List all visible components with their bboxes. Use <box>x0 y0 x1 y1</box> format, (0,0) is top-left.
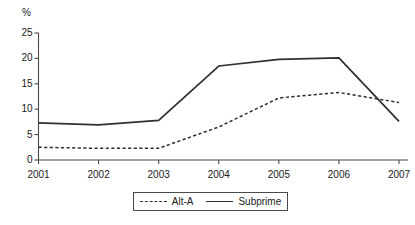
x-axis-tick-label: 2003 <box>138 170 180 180</box>
x-axis-tick-label: 2002 <box>78 170 120 180</box>
x-axis-tick-label: 2005 <box>258 170 300 180</box>
x-axis-tick-label: 2004 <box>198 170 240 180</box>
y-axis-tick-label: 15 <box>11 79 33 89</box>
legend-item-label: Subprime <box>238 197 281 207</box>
y-axis-tick-label: 20 <box>11 53 33 63</box>
legend-item-subprime: Subprime <box>206 197 281 207</box>
x-axis-tick-label: 2007 <box>378 170 415 180</box>
series-line-alt-a <box>39 92 400 148</box>
x-axis-tick-label: 2001 <box>18 170 60 180</box>
line-chart: % 0510152025 200120022003200420052006200… <box>0 0 415 225</box>
legend-dashed-line-icon <box>140 201 167 202</box>
series-line-subprime <box>39 58 400 125</box>
y-axis-tick-label: 25 <box>11 28 33 38</box>
x-axis-tick-label: 2006 <box>318 170 360 180</box>
legend-item-alt-a: Alt-A <box>140 197 194 207</box>
chart-legend: Alt-A Subprime <box>133 192 288 211</box>
y-axis-tick-label: 5 <box>11 130 33 140</box>
y-axis-tick-label: 0 <box>11 155 33 165</box>
y-axis-tick-label: 10 <box>11 104 33 114</box>
legend-solid-line-icon <box>206 201 233 202</box>
legend-item-label: Alt-A <box>172 197 194 207</box>
